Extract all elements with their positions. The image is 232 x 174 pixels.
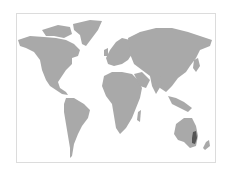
madagascar (137, 110, 141, 122)
north-america (18, 36, 80, 95)
arctic-islands (42, 25, 72, 38)
south-america (64, 98, 90, 158)
india (150, 76, 162, 94)
world-map (0, 0, 232, 174)
uk (104, 48, 108, 56)
africa (102, 72, 142, 134)
greenland (73, 20, 102, 46)
southeast-asia-islands (168, 96, 192, 112)
new-zealand (203, 140, 210, 150)
japan (193, 58, 200, 72)
